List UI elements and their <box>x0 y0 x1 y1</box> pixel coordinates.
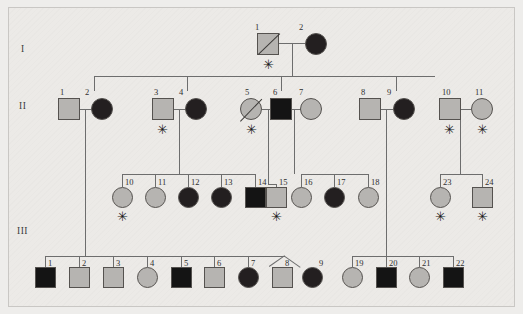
generation-label-2: II <box>19 101 26 111</box>
pedigree-chart-figure: I II III <box>0 0 523 314</box>
symbol-female-circle[interactable] <box>91 98 113 120</box>
sibling-drop-III23 <box>440 174 441 187</box>
individual-number: 9 <box>387 87 391 97</box>
symbol-female-circle[interactable] <box>300 98 322 120</box>
sibling-drop-III10 <box>122 174 123 187</box>
sampled-asterisk-icon: ✳ <box>435 212 446 222</box>
symbol-male-square[interactable] <box>35 267 56 288</box>
individual-number: 17 <box>337 177 346 187</box>
individual-number: 8 <box>361 87 365 97</box>
individual-number: 2 <box>85 87 89 97</box>
symbol-female-circle[interactable] <box>342 267 363 288</box>
sibling-drop-III17 <box>334 174 335 187</box>
symbol-male-square[interactable] <box>472 187 493 208</box>
symbol-male-square[interactable] <box>266 187 287 208</box>
symbol-female-circle[interactable] <box>211 187 232 208</box>
individual-number: 1 <box>255 22 259 32</box>
sampled-asterisk-icon: ✳ <box>263 60 274 70</box>
symbol-male-square[interactable] <box>58 98 80 120</box>
individual-number: 13 <box>224 177 233 187</box>
sibling-drop-III14 <box>255 174 256 187</box>
symbol-male-square[interactable] <box>204 267 225 288</box>
sibling-drop-III12 <box>188 174 189 187</box>
individual-number: 2 <box>299 22 303 32</box>
symbol-female-circle[interactable] <box>137 267 158 288</box>
symbol-female-circle[interactable] <box>185 98 207 120</box>
sampled-asterisk-icon: ✳ <box>246 125 257 135</box>
individual-number: 11 <box>475 87 483 97</box>
descent-line-II5-II6 <box>268 109 269 184</box>
sibling-drop-III21 <box>419 256 420 267</box>
sampled-asterisk-icon: ✳ <box>117 212 128 222</box>
descent-line-gen1 <box>292 43 293 76</box>
individual-number: 4 <box>179 87 183 97</box>
symbol-male-square[interactable] <box>270 98 292 120</box>
generation-label-1: I <box>21 44 25 54</box>
sibling-drop-III18 <box>368 174 369 187</box>
sibling-drop-III1 <box>45 256 46 267</box>
individual-number: 23 <box>443 177 452 187</box>
symbol-male-square[interactable] <box>359 98 381 120</box>
individual-number: 15 <box>279 177 288 187</box>
individual-number: 9 <box>319 258 323 268</box>
descent-line-II8-II9 <box>386 109 387 256</box>
symbol-male-square[interactable] <box>376 267 397 288</box>
symbol-female-circle[interactable] <box>358 187 379 208</box>
sibship-bar-III23-24 <box>440 174 482 175</box>
individual-number: 19 <box>355 258 364 268</box>
symbol-male-square[interactable] <box>245 187 266 208</box>
sibling-drop-III7 <box>248 256 249 267</box>
individual-number: 21 <box>422 258 431 268</box>
individual-number: 11 <box>158 177 166 187</box>
generation-label-3: III <box>17 226 28 236</box>
symbol-male-square[interactable] <box>69 267 90 288</box>
individual-number: 7 <box>299 87 303 97</box>
individual-number: 24 <box>485 177 494 187</box>
descent-line-II6-II7 <box>294 109 295 174</box>
symbol-male-square[interactable] <box>171 267 192 288</box>
sibling-drop-II2 <box>94 76 95 91</box>
sibling-drop-III16 <box>301 174 302 187</box>
symbol-female-circle[interactable] <box>409 267 430 288</box>
symbol-male-square[interactable] <box>443 267 464 288</box>
sibling-drop-III5 <box>181 256 182 267</box>
symbol-female-circle[interactable] <box>471 98 493 120</box>
sampled-asterisk-icon: ✳ <box>271 212 282 222</box>
symbol-female-circle[interactable] <box>305 33 327 55</box>
symbol-male-square[interactable] <box>152 98 174 120</box>
symbol-female-circle[interactable] <box>324 187 345 208</box>
individual-number: 10 <box>125 177 134 187</box>
symbol-female-circle[interactable] <box>291 187 312 208</box>
symbol-female-circle[interactable] <box>112 187 133 208</box>
individual-number: 6 <box>273 87 277 97</box>
symbol-female-circle[interactable] <box>302 267 323 288</box>
individual-number: 1 <box>60 87 64 97</box>
sibling-drop-III2 <box>79 256 80 267</box>
symbol-female-circle[interactable] <box>393 98 415 120</box>
descent-line-II3-II4 <box>179 109 180 174</box>
symbol-female-circle[interactable] <box>430 187 451 208</box>
sampled-asterisk-icon: ✳ <box>477 212 488 222</box>
sibling-drop-III22 <box>453 256 454 267</box>
sibling-drop-III4 <box>147 256 148 267</box>
individual-number: 16 <box>304 177 313 187</box>
sibship-bar-III1-9 <box>45 256 285 257</box>
symbol-female-circle[interactable] <box>145 187 166 208</box>
individual-number: 3 <box>154 87 158 97</box>
sibling-drop-II4 <box>187 76 188 91</box>
symbol-male-square[interactable] <box>272 267 293 288</box>
symbol-male-square[interactable] <box>103 267 124 288</box>
individual-number: 14 <box>258 177 267 187</box>
symbol-male-square[interactable] <box>439 98 461 120</box>
symbol-female-circle[interactable] <box>238 267 259 288</box>
sampled-asterisk-icon: ✳ <box>444 125 455 135</box>
sibling-drop-III20 <box>386 256 387 267</box>
sibling-drop-III24 <box>482 174 483 187</box>
sibship-bar-III15 <box>268 184 277 185</box>
sibling-drop-II6 <box>281 76 282 91</box>
individual-number: 10 <box>442 87 451 97</box>
individual-number: 18 <box>371 177 380 187</box>
symbol-female-circle[interactable] <box>178 187 199 208</box>
figure-canvas: I II III <box>8 7 515 307</box>
individual-number: 12 <box>191 177 200 187</box>
